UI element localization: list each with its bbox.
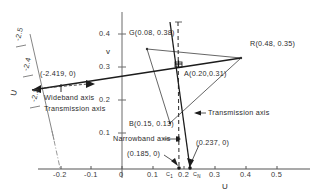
point-label-G: G(0.08, 0.38) [129, 29, 175, 36]
narrowband-leader-cap [176, 137, 180, 142]
point-label-R: R(0.48, 0.35) [250, 40, 295, 47]
x-tick-label-0-5: 0.5 [271, 171, 282, 178]
x-tick-label-0-2: 0.2 [178, 171, 189, 178]
narrowband-axis [178, 22, 179, 168]
point-label-B: B(0.15, 0.13) [129, 120, 174, 127]
y-tick-label-0-2: 0.2 [99, 96, 110, 103]
annotation-transmission-axis: Transmission axis [208, 109, 270, 116]
annotation-wideband-transmission-axis: Transmission axis [44, 105, 106, 112]
x-tick-label-neg0-1: -0.1 [84, 171, 98, 178]
point-R-marker [240, 57, 242, 59]
c1-subscript: 1 [170, 174, 173, 179]
cn-subscript: N [197, 174, 201, 179]
x-tick-label-0: 0 [119, 171, 123, 178]
intercept-label-wideband: (-2.419, 0) [40, 70, 76, 77]
y-tick-label-0-3: 0.3 [99, 63, 110, 70]
y-tick-label-0-4: 0.4 [99, 30, 110, 37]
annotation-narrowband-axis: Narrowband axis [113, 135, 171, 142]
y-axis-label: v [106, 48, 110, 56]
x-mark-cn: CN [193, 172, 201, 180]
annotation-wideband-axis: Wideband axis [44, 94, 94, 101]
transmission-axis-line [170, 22, 190, 168]
x-mark-c1: C1 [166, 172, 173, 180]
x-tick-label-0-4: 0.4 [240, 171, 251, 178]
point-G-marker [146, 48, 148, 50]
x-tick-label-neg0-2: -0.2 [53, 171, 67, 178]
intercept-label-narrowband: (0.185, 0) [127, 150, 160, 157]
intercept-label-transmission: (0.237, 0) [196, 139, 229, 146]
chromaticity-figure: 0.4 0.3 0.2 0.1 v -0.2 -0.1 0 0.1 0.2 0.… [0, 0, 317, 195]
x-tick-label-0-1: 0.1 [147, 171, 158, 178]
point-label-A: A(0.20,0.31) [184, 70, 227, 77]
intercept-0185-arrow [171, 158, 178, 166]
x-axis-label: U [222, 183, 228, 191]
x-tick-label-0-3: 0.3 [209, 171, 220, 178]
transmission-axis-leader-arrow [194, 111, 201, 116]
y-tick-label-0-1: 0.1 [99, 129, 110, 136]
